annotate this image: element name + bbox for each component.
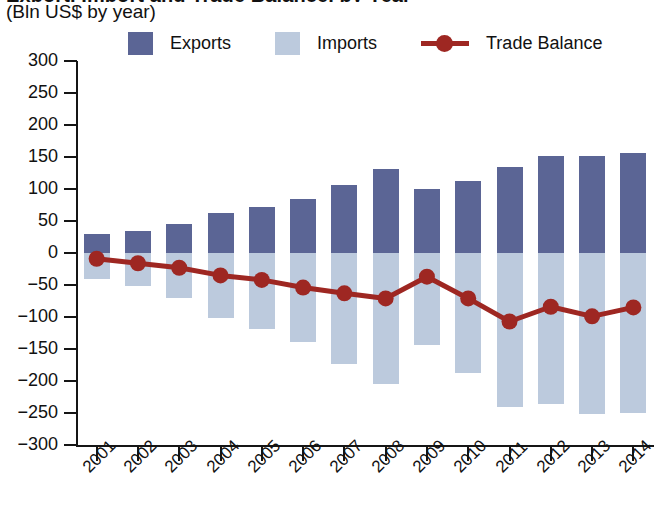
y-tick-300 bbox=[64, 60, 77, 62]
bar-export-2006 bbox=[290, 199, 316, 253]
x-tick-label-2014: 2014 bbox=[615, 436, 656, 477]
bar-import-2001 bbox=[84, 253, 110, 279]
x-tick-label-2007: 2007 bbox=[326, 436, 367, 477]
bar-export-2004 bbox=[208, 213, 234, 253]
y-tick-label--300: −300 bbox=[0, 434, 58, 455]
x-tick-label-2002: 2002 bbox=[120, 436, 161, 477]
bar-import-2004 bbox=[208, 253, 234, 318]
x-tick-label-2003: 2003 bbox=[161, 436, 202, 477]
y-tick--150 bbox=[64, 348, 77, 350]
y-tick-label-150: 150 bbox=[0, 146, 58, 167]
x-tick-label-2013: 2013 bbox=[574, 436, 615, 477]
y-tick-0 bbox=[64, 252, 77, 254]
bar-import-2012 bbox=[538, 253, 564, 404]
y-tick--50 bbox=[64, 284, 77, 286]
bar-export-2013 bbox=[579, 156, 605, 253]
x-tick-label-2011: 2011 bbox=[492, 437, 532, 477]
y-tick-label-100: 100 bbox=[0, 178, 58, 199]
x-tick-label-2006: 2006 bbox=[285, 436, 326, 477]
bar-export-2007 bbox=[331, 185, 357, 253]
bar-export-2002 bbox=[125, 231, 151, 253]
x-tick-label-2008: 2008 bbox=[368, 436, 409, 477]
y-tick-label-50: 50 bbox=[0, 210, 58, 231]
y-tick-50 bbox=[64, 220, 77, 222]
y-tick--300 bbox=[64, 444, 77, 446]
x-tick-label-2010: 2010 bbox=[450, 436, 491, 477]
bar-import-2003 bbox=[166, 253, 192, 298]
y-tick-100 bbox=[64, 188, 77, 190]
bar-import-2014 bbox=[620, 253, 646, 413]
bar-export-2011 bbox=[497, 167, 523, 253]
x-tick-label-2012: 2012 bbox=[533, 436, 574, 477]
y-tick-label-0: 0 bbox=[0, 242, 58, 263]
x-tick-label-2009: 2009 bbox=[409, 436, 450, 477]
chart-container: Export, Import and Trade Balance, by Yea… bbox=[0, 0, 668, 515]
bar-import-2007 bbox=[331, 253, 357, 364]
bar-export-2010 bbox=[455, 181, 481, 253]
bar-import-2006 bbox=[290, 253, 316, 342]
bar-export-2009 bbox=[414, 189, 440, 253]
bar-import-2010 bbox=[455, 253, 481, 373]
y-tick-150 bbox=[64, 156, 77, 158]
y-tick--200 bbox=[64, 380, 77, 382]
bar-import-2009 bbox=[414, 253, 440, 345]
y-tick-label--250: −250 bbox=[0, 402, 58, 423]
y-tick-label--50: −50 bbox=[0, 274, 58, 295]
y-tick-label--100: −100 bbox=[0, 306, 58, 327]
bar-import-2008 bbox=[373, 253, 399, 384]
y-tick-200 bbox=[64, 124, 77, 126]
x-tick-label-2004: 2004 bbox=[203, 436, 244, 477]
x-tick-label-2001: 2001 bbox=[79, 436, 120, 477]
y-tick--100 bbox=[64, 316, 77, 318]
bar-export-2003 bbox=[166, 224, 192, 253]
bar-export-2001 bbox=[84, 234, 110, 253]
bar-export-2005 bbox=[249, 207, 275, 253]
bar-import-2011 bbox=[497, 253, 523, 407]
bar-export-2012 bbox=[538, 156, 564, 253]
bar-import-2005 bbox=[249, 253, 275, 329]
y-tick-label--200: −200 bbox=[0, 370, 58, 391]
x-tick-label-2005: 2005 bbox=[244, 436, 285, 477]
y-tick-label-300: 300 bbox=[0, 50, 58, 71]
bar-import-2013 bbox=[579, 253, 605, 414]
bar-export-2008 bbox=[373, 169, 399, 253]
plot-area: 300250200150100500−50−100−150−200−250−30… bbox=[0, 0, 668, 515]
y-tick-250 bbox=[64, 92, 77, 94]
bar-import-2002 bbox=[125, 253, 151, 286]
y-tick-label--150: −150 bbox=[0, 338, 58, 359]
y-tick-label-200: 200 bbox=[0, 114, 58, 135]
y-tick--250 bbox=[64, 412, 77, 414]
bar-export-2014 bbox=[620, 153, 646, 253]
y-tick-label-250: 250 bbox=[0, 82, 58, 103]
